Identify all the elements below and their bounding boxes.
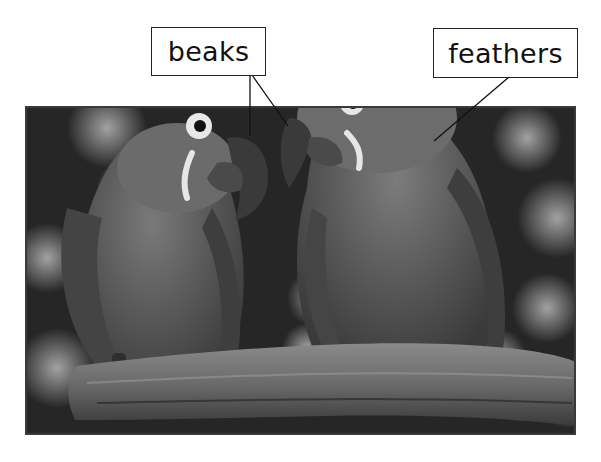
parrots-photo xyxy=(25,106,576,435)
feathers-label-text: feathers xyxy=(448,38,563,69)
feathers-label: feathers xyxy=(433,28,578,78)
beaks-label-text: beaks xyxy=(168,36,250,67)
beaks-label: beaks xyxy=(151,27,266,76)
parrots-illustration xyxy=(27,108,576,435)
